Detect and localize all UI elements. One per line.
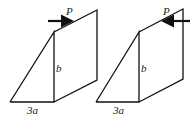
left-height-label: b <box>56 62 62 74</box>
left-base-label: 3a <box>26 104 39 116</box>
right-force-label: P <box>162 5 170 17</box>
left-wedge <box>10 10 97 102</box>
left-force-label: P <box>65 5 73 17</box>
right-base-label: 3a <box>112 104 125 116</box>
right-height-label: b <box>141 62 147 74</box>
right-wedge <box>96 9 183 102</box>
wedge-diagrams: P b 3a P b 3a <box>0 0 192 118</box>
